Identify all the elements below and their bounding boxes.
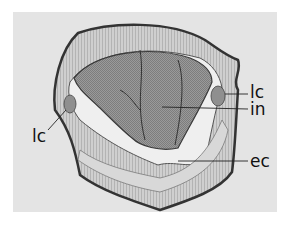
label-lc-left: lc [32, 128, 46, 145]
label-in: in [250, 101, 266, 118]
label-ec: ec [250, 153, 270, 170]
cross-section-illustration [0, 0, 289, 225]
lateral-cord-right [211, 86, 225, 106]
